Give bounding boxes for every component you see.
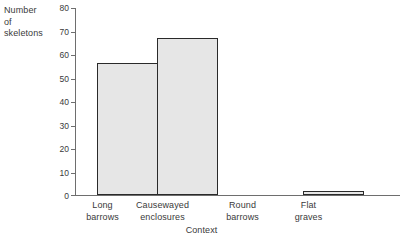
bar-causewayed-enclosures <box>157 38 218 195</box>
y-tick-label-0: 0 <box>49 192 69 201</box>
x-tick-label-round-barrows-line-1: Round <box>207 200 278 212</box>
y-tick-label-10: 10 <box>49 169 69 178</box>
y-tick-mark-10 <box>71 173 76 174</box>
y-tick-label-50: 50 <box>49 75 69 84</box>
y-tick-label-70: 70 <box>49 28 69 37</box>
bar-long-barrows <box>97 63 158 195</box>
y-tick-label-20: 20 <box>49 145 69 154</box>
y-tick-label-30: 30 <box>49 122 69 131</box>
y-tick-mark-80 <box>71 8 76 9</box>
y-tick-mark-40 <box>71 102 76 103</box>
x-tick-label-round-barrows: Round barrows <box>207 200 278 223</box>
x-tick-label-flat-graves: Flat graves <box>273 200 344 223</box>
y-tick-mark-60 <box>71 55 76 56</box>
y-tick-mark-20 <box>71 149 76 150</box>
y-tick-mark-30 <box>71 126 76 127</box>
x-tick-label-round-barrows-line-2: barrows <box>207 212 278 224</box>
bar-flat-graves <box>303 191 364 195</box>
y-tick-mark-50 <box>71 79 76 80</box>
x-tick-label-causewayed-enclosures-line-2: enclosures <box>127 212 198 224</box>
x-tick-label-flat-graves-line-2: graves <box>273 212 344 224</box>
y-tick-label-40: 40 <box>49 98 69 107</box>
y-tick-mark-0 <box>71 195 76 196</box>
y-axis-tick-labels: 80 70 60 50 40 30 20 10 0 <box>47 8 69 196</box>
bar-chart-figure: Number of skeletons 80 70 60 50 40 30 20… <box>0 0 403 240</box>
y-tick-label-80: 80 <box>49 4 69 13</box>
y-tick-mark-70 <box>71 32 76 33</box>
x-axis-line <box>75 195 400 196</box>
x-tick-label-flat-graves-line-1: Flat <box>273 200 344 212</box>
x-axis-title: Context <box>0 225 403 235</box>
y-tick-label-60: 60 <box>49 51 69 60</box>
x-tick-label-causewayed-enclosures-line-1: Causewayed <box>127 200 198 212</box>
plot-area <box>75 8 400 196</box>
x-tick-label-causewayed-enclosures: Causewayed enclosures <box>127 200 198 223</box>
